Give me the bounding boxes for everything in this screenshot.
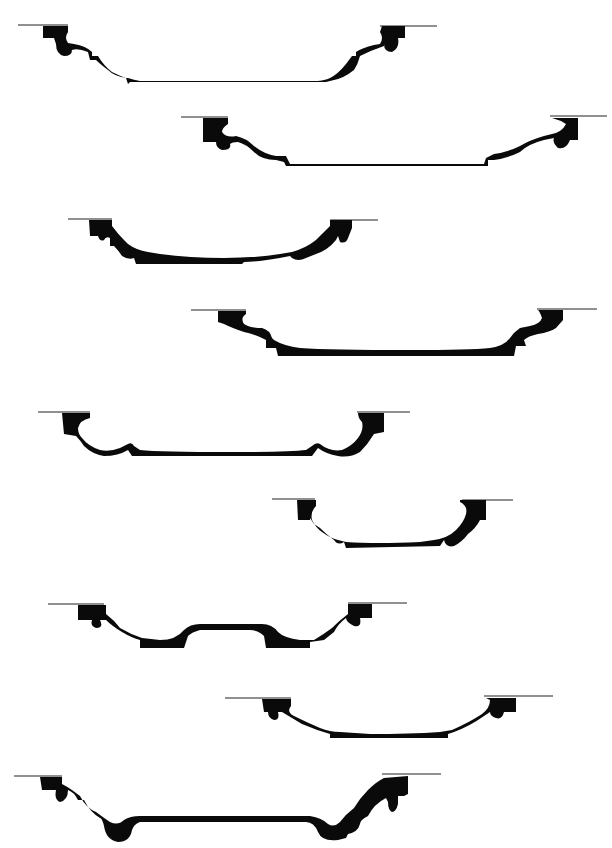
rim-profile-3 <box>68 219 378 264</box>
rim-profile-4 <box>191 309 597 356</box>
rim-profile-9 <box>14 774 441 842</box>
rim-profile-2 <box>181 116 607 166</box>
rim-profiles-diagram <box>0 0 612 848</box>
rim-profile-8 <box>225 696 553 738</box>
rim-profile-5 <box>38 412 410 457</box>
rim-profile-6 <box>272 499 513 548</box>
rim-profile-7 <box>48 603 407 648</box>
rim-profile-1 <box>18 25 437 84</box>
